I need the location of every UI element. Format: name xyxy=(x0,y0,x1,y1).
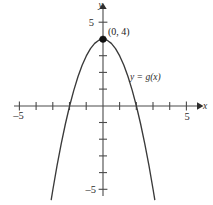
graph-figure: x y –5 5 5 –5 (0, 4) y = g(x) xyxy=(0,0,213,205)
curve-equation-label: y = g(x) xyxy=(129,72,161,83)
x-tick-label-5: 5 xyxy=(184,111,189,122)
y-tick-label-5: 5 xyxy=(89,17,94,28)
vertex-point-marker xyxy=(100,36,107,43)
coordinate-plane: x y –5 5 5 –5 (0, 4) y = g(x) xyxy=(0,0,213,205)
vertex-point-label: (0, 4) xyxy=(108,26,130,38)
y-axis-label: y xyxy=(97,0,103,10)
x-axis-label: x xyxy=(202,101,208,111)
y-tick-label-minus5: –5 xyxy=(85,184,97,195)
x-tick-label-minus5: –5 xyxy=(12,110,24,121)
